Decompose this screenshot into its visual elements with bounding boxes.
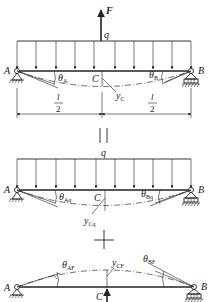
- load-label: q: [101, 147, 106, 158]
- angle-arc-a: [54, 71, 56, 85]
- angle-label-a: θA: [58, 72, 68, 84]
- angle-label-a: θAq: [59, 191, 71, 203]
- midpoint-label-c: C: [96, 291, 103, 302]
- svg-text:l: l: [151, 92, 154, 102]
- tangent-line-a: [17, 273, 60, 287]
- beam-superposition-diagram: F q A: [0, 0, 211, 302]
- support-label-a: A: [3, 184, 11, 195]
- support-label-a: A: [3, 282, 11, 293]
- angle-label-b: θBF: [143, 253, 156, 265]
- support-label-a: A: [3, 65, 11, 76]
- panel-mid: q A: [3, 147, 204, 227]
- tangent-line-a: [17, 190, 58, 207]
- distributed-load-arrows: [17, 41, 191, 69]
- angle-label-a: θAF: [62, 259, 75, 271]
- angle-arc-b: [163, 271, 165, 287]
- support-label-b: B: [201, 281, 207, 292]
- span-left-fraction: l 2: [54, 92, 63, 114]
- support-label-b: B: [198, 65, 204, 76]
- load-label: q: [104, 29, 109, 40]
- span-right-fraction: l 2: [148, 92, 157, 114]
- plus-sign: [94, 230, 114, 249]
- deflection-label: yCF: [111, 257, 124, 269]
- deflection-curve: [17, 71, 191, 87]
- svg-text:l: l: [57, 92, 60, 102]
- distributed-load-arrows: [17, 159, 191, 188]
- tangent-line-a: [17, 71, 58, 88]
- panel-bottom: A B θAF θBF yCF C: [3, 253, 207, 302]
- svg-text:2: 2: [56, 104, 61, 114]
- deflection-label: yC: [115, 90, 124, 102]
- panel-top: F q A: [3, 5, 204, 118]
- angle-arc-a: [57, 272, 59, 287]
- tangent-line-b: [150, 264, 194, 287]
- equals-sign: [100, 128, 107, 143]
- angle-arc-b: [162, 71, 164, 83]
- deflection-curve: [17, 190, 191, 206]
- svg-text:2: 2: [150, 104, 155, 114]
- angle-arc-a: [55, 190, 57, 204]
- midpoint-label-c: C: [92, 73, 99, 84]
- deflection-label: yCq: [83, 215, 95, 227]
- force-label: F: [105, 5, 113, 16]
- support-label-b: B: [198, 184, 204, 195]
- midpoint-label-c: C: [94, 192, 101, 203]
